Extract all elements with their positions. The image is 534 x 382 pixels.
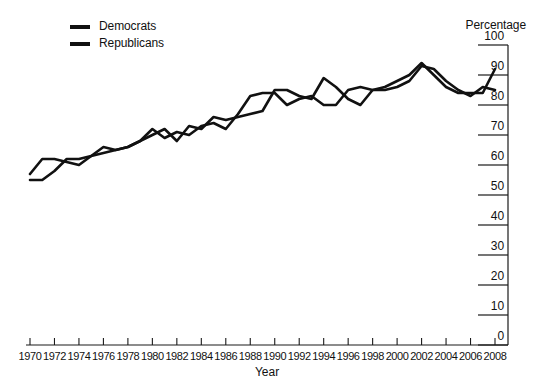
x-axis-tick-label: 1992 [288,350,311,362]
line-chart: Democrats Republicans Percentage Year 01… [0,0,534,382]
legend-item-republicans: Republicans [70,35,164,52]
y-axis-tick-label: 100 [484,29,504,43]
legend-swatch-icon [70,42,90,46]
x-axis-tick-label: 1978 [116,350,139,362]
x-axis-tick-label: 1994 [312,350,335,362]
series-line-republicans [30,66,495,180]
y-axis-tick-label: 40 [491,209,504,223]
x-axis-tick-label: 1996 [337,350,360,362]
series-lines [30,63,495,180]
x-axis-tick-label: 1984 [190,350,213,362]
x-axis-tick-label: 1976 [92,350,115,362]
x-axis-tick-label: 1974 [68,350,91,362]
x-axis-tick-label: 1982 [165,350,188,362]
y-axis-tick-label: 10 [491,299,504,313]
y-axis-tick-label: 20 [491,269,504,283]
x-axis-tick-label: 1998 [361,350,384,362]
legend-label-republicans: Republicans [99,37,164,50]
x-axis-ticks [30,338,495,345]
legend: Democrats Republicans [70,18,164,52]
x-axis-title: Year [0,365,534,379]
x-axis-tick-label: 2008 [484,350,507,362]
legend-item-democrats: Democrats [70,18,164,35]
x-axis-tick-label: 1972 [43,350,66,362]
y-axis-tick-label: 90 [491,59,504,73]
x-axis-tick-label: 2004 [435,350,458,362]
legend-swatch-icon [70,25,90,29]
y-axis-tick-label: 0 [497,329,504,343]
series-line-democrats [30,63,495,174]
y-axis-tick-label: 70 [491,119,504,133]
legend-label-democrats: Democrats [99,20,156,33]
x-axis-tick-label: 1970 [19,350,42,362]
y-axis-tick-label: 30 [491,239,504,253]
x-axis-tick-label: 2002 [410,350,433,362]
x-axis-tick-label: 2006 [459,350,482,362]
y-axis-tick-label: 50 [491,179,504,193]
x-axis-tick-label: 1986 [214,350,237,362]
y-axis-tick-label: 80 [491,89,504,103]
x-axis-tick-label: 2000 [386,350,409,362]
x-axis-tick-label: 1980 [141,350,164,362]
x-axis-tick-label: 1990 [263,350,286,362]
y-axis-tick-label: 60 [491,149,504,163]
plot-area [0,0,534,382]
x-axis-tick-label: 1988 [239,350,262,362]
